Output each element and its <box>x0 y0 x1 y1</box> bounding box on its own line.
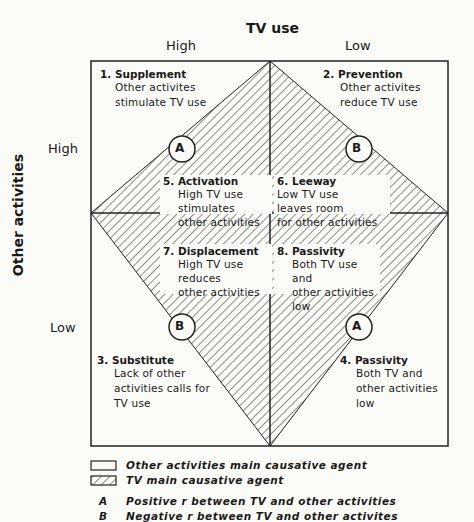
marker-bottom-left-letter: B <box>175 319 184 333</box>
marker-top-right-letter: B <box>352 141 361 155</box>
quadrant-number: 3. <box>97 354 108 366</box>
quadrant-text-line: Other activites <box>340 80 421 95</box>
quadrant-text-line: Both TV use and <box>292 257 377 285</box>
quadrant-text-line: Other activites <box>115 80 206 95</box>
legend-b-key: B <box>99 510 107 522</box>
quadrant-text-line: reduce TV use <box>340 95 421 110</box>
legend-a-text: Positive r between TV and other activiti… <box>126 495 396 507</box>
legend-b-text: Negative r between TV and other activite… <box>126 510 398 522</box>
y-axis-title: Other activities <box>10 150 26 280</box>
quadrant-title: Substitute <box>112 354 174 366</box>
quadrant-2-prevention: 2. Prevention Other activites reduce TV … <box>323 68 421 110</box>
quadrant-number: 4. <box>340 354 351 366</box>
marker-bottom-right-letter: A <box>352 319 361 333</box>
quadrant-text-line: stimulate TV use <box>115 95 206 110</box>
quadrant-number: 6. <box>277 175 288 187</box>
quadrant-title: Leeway <box>292 175 336 187</box>
marker-top-left-letter: A <box>175 141 184 155</box>
quadrant-5-activation: 5. Activation High TV use stimulates oth… <box>160 175 272 214</box>
quadrant-text-line: High TV use <box>178 187 269 201</box>
quadrant-text-line: low <box>356 396 438 411</box>
quadrant-text-line: stimulates <box>178 201 269 215</box>
x-axis-low-label: Low <box>345 38 371 53</box>
quadrant-text-line: High TV use <box>178 257 269 271</box>
quadrant-text-line: leaves room <box>277 201 387 215</box>
quadrant-title: Passivity <box>355 354 408 366</box>
quadrant-1-supplement: 1. Supplement Other activites stimulate … <box>100 68 206 110</box>
quadrant-text-line: Low TV use <box>277 187 387 201</box>
quadrant-text-line: Lack of other <box>114 366 210 381</box>
quadrant-text-line: other activities <box>178 285 269 299</box>
quadrant-number: 7. <box>163 245 174 257</box>
quadrant-title: Activation <box>178 175 238 187</box>
quadrant-8-passivity: 8. Passivity Both TV use and other activ… <box>274 244 380 294</box>
quadrant-3-substitute: 3. Substitute Lack of other activities c… <box>97 354 210 411</box>
quadrant-number: 5. <box>163 175 174 187</box>
quadrant-4-passivity: 4. Passivity Both TV and other activitie… <box>340 354 438 411</box>
quadrant-text-line: other activities <box>292 285 377 299</box>
quadrant-number: 2. <box>323 68 334 80</box>
quadrant-number: 1. <box>100 68 111 80</box>
quadrant-title: Supplement <box>115 68 186 80</box>
quadrant-title: Prevention <box>338 68 403 80</box>
quadrant-6-leeway: 6. Leeway Low TV use leaves room for oth… <box>274 175 390 214</box>
quadrant-text-line: other activities <box>178 215 269 229</box>
quadrant-title: Displacement <box>178 245 259 257</box>
x-axis-title: TV use <box>246 20 299 36</box>
quadrant-text-line: other activities <box>356 381 438 396</box>
legend-a-key: A <box>99 495 107 507</box>
quadrant-text-line: activities calls for <box>114 381 210 396</box>
legend-hatched-swatch <box>91 476 116 485</box>
y-axis-high-label: High <box>48 141 78 156</box>
y-axis-low-label: Low <box>50 320 76 335</box>
legend-open-swatch <box>91 461 116 470</box>
quadrant-text-line: Both TV and <box>356 366 438 381</box>
quadrant-text-line: for other activities <box>277 215 387 229</box>
legend-hatched-label: TV main causative agent <box>126 474 284 486</box>
legend-open-label: Other activities main causative agent <box>126 459 367 471</box>
quadrant-text-line: low <box>292 299 377 313</box>
quadrant-7-displacement: 7. Displacement High TV use reduces othe… <box>160 244 272 294</box>
quadrant-text-line: TV use <box>114 396 210 411</box>
quadrant-text-line: reduces <box>178 271 269 285</box>
quadrant-title: Passivity <box>292 245 345 257</box>
x-axis-high-label: High <box>166 38 196 53</box>
quadrant-number: 8. <box>277 245 288 257</box>
